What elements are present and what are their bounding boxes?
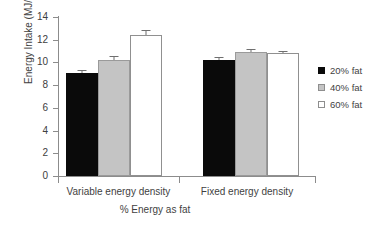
legend-label: 20% fat	[330, 65, 362, 76]
y-axis-tick-label: 10	[22, 56, 48, 67]
error-bar-cap	[78, 70, 87, 71]
bar	[203, 60, 235, 176]
legend-label: 60% fat	[330, 99, 362, 110]
legend-swatch-60-icon	[318, 101, 325, 108]
y-axis-tick	[53, 108, 59, 109]
x-axis-separator	[58, 176, 59, 183]
bar	[130, 35, 162, 176]
error-bar	[66, 70, 98, 73]
legend-swatch-20-icon	[318, 67, 325, 74]
x-axis-separator	[315, 176, 316, 183]
error-bar-cap	[110, 56, 119, 57]
y-axis-tick-label: 0	[22, 170, 48, 181]
x-axis-group-label: Variable energy density	[49, 186, 189, 197]
error-bar	[203, 57, 235, 60]
x-axis-group-label: Fixed energy density	[177, 186, 317, 197]
y-axis-tick	[53, 131, 59, 132]
y-axis-tick	[53, 17, 59, 18]
y-axis-tick-label: 2	[22, 147, 48, 158]
y-axis-tick-label: 14	[22, 11, 48, 22]
legend: 20% fat 40% fat 60% fat	[318, 62, 362, 113]
y-axis-tick	[53, 153, 59, 154]
x-axis-separator	[179, 176, 180, 183]
error-bar	[98, 56, 130, 60]
y-axis-tick-label: 8	[22, 79, 48, 90]
error-bar-cap	[142, 30, 151, 31]
legend-item: 40% fat	[318, 79, 362, 96]
legend-label: 40% fat	[330, 82, 362, 93]
y-axis-tick-label: 12	[22, 34, 48, 45]
error-bar	[235, 49, 267, 52]
y-axis-tick-label: 6	[22, 102, 48, 113]
error-bar-cap	[215, 57, 224, 58]
y-axis-tick	[53, 85, 59, 86]
bar	[98, 60, 130, 176]
legend-item: 60% fat	[318, 96, 362, 113]
error-bar	[130, 30, 162, 35]
bar	[267, 53, 299, 176]
error-bar	[267, 51, 299, 53]
error-bar-cap	[279, 51, 288, 52]
y-axis-tick	[53, 40, 59, 41]
bar-chart: Energy Intake (MJ/d) 14121086420 Variabl…	[0, 0, 388, 226]
bar	[235, 52, 267, 176]
bar	[66, 73, 98, 176]
legend-item: 20% fat	[318, 62, 362, 79]
y-axis-tick	[53, 62, 59, 63]
y-axis-tick-label: 4	[22, 125, 48, 136]
legend-swatch-40-icon	[318, 84, 325, 91]
x-axis-title: % Energy as fat	[55, 204, 255, 215]
error-bar-cap	[247, 49, 256, 50]
x-axis-line	[58, 176, 315, 177]
